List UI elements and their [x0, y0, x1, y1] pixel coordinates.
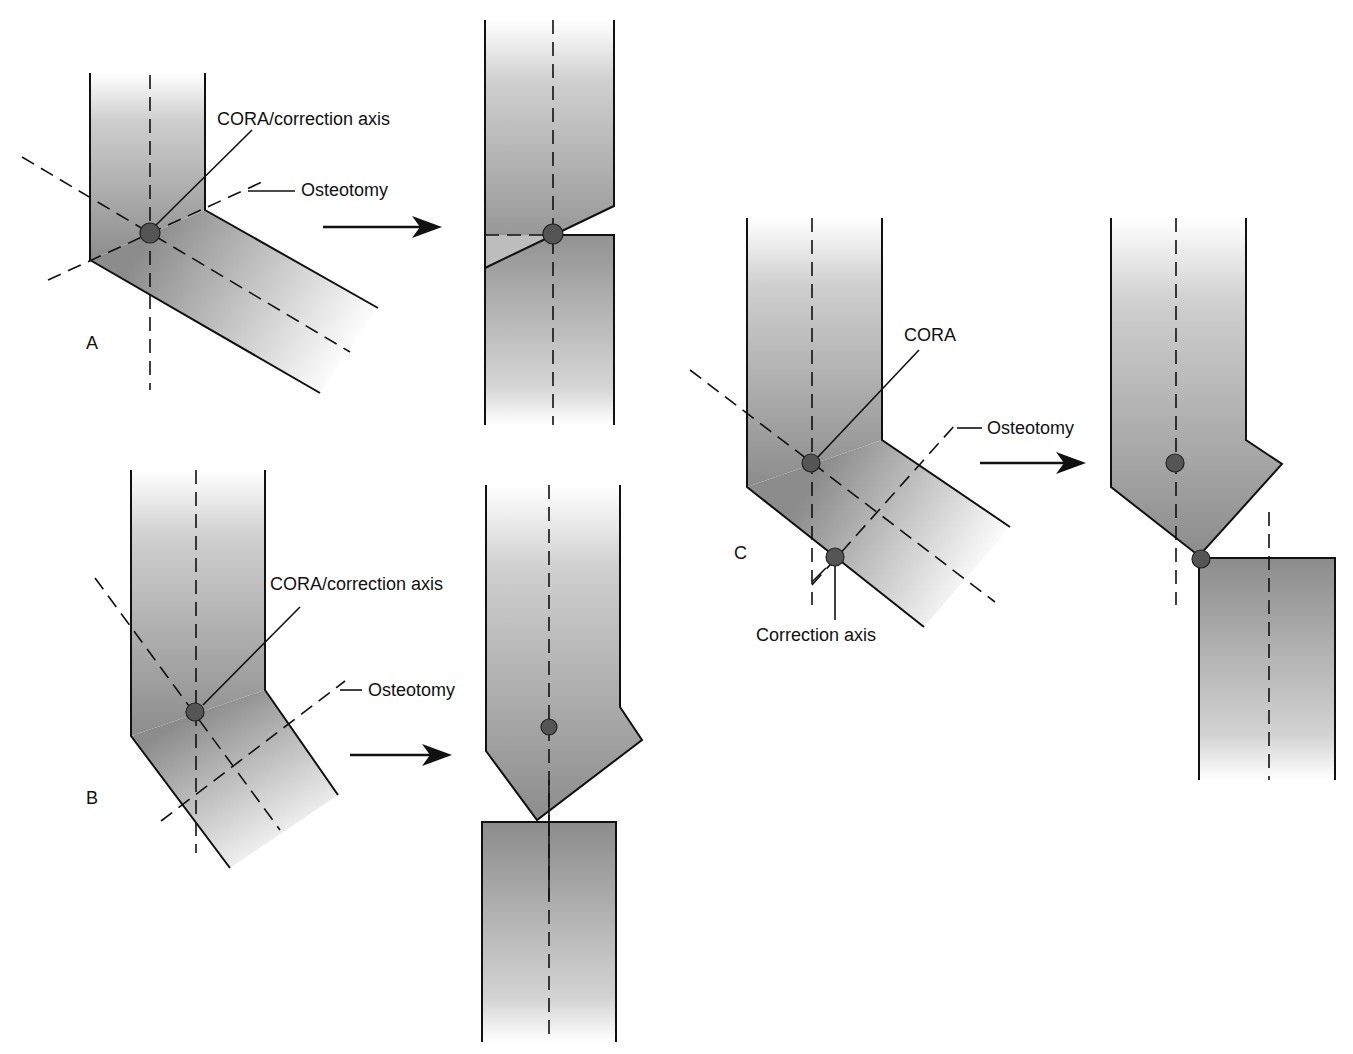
panel-label: A: [86, 333, 98, 353]
cora-label: CORA/correction axis: [217, 109, 390, 129]
correction-axis-dot: [1192, 550, 1210, 568]
arrow-c: [980, 452, 1086, 474]
osteotomy-label: Osteotomy: [368, 680, 455, 700]
panel-label: B: [86, 788, 98, 808]
osteotomy-label: Osteotomy: [301, 180, 388, 200]
cora-pivot-dot: [140, 223, 160, 243]
panel-b-deformity: CORA/correction axis Osteotomy B: [86, 470, 455, 868]
cora-pivot-dot: [541, 719, 557, 735]
cora-label: CORA: [904, 325, 956, 345]
cora-pivot-dot: [186, 703, 204, 721]
correction-axis-dot: [826, 548, 844, 566]
cora-pivot-dot: [543, 224, 563, 244]
cora-label: CORA/correction axis: [270, 574, 443, 594]
panel-b-corrected: [482, 485, 642, 1042]
panel-c-corrected: [1111, 218, 1335, 780]
panel-a-corrected: [485, 20, 614, 425]
panel-label: C: [734, 543, 747, 563]
panel-a-deformity: CORA/correction axis Osteotomy A: [22, 73, 390, 393]
cora-dot: [802, 454, 820, 472]
cora-dot: [1166, 454, 1184, 472]
correction-axis-label: Correction axis: [756, 625, 876, 645]
arrow-b: [350, 744, 452, 766]
osteotomy-label: Osteotomy: [987, 418, 1074, 438]
panel-c-deformity: CORA Osteotomy Correction axis C: [690, 218, 1074, 645]
arrow-a: [323, 216, 442, 238]
osteotomy-diagram: CORA/correction axis Osteotomy A CORA/co…: [0, 0, 1353, 1054]
